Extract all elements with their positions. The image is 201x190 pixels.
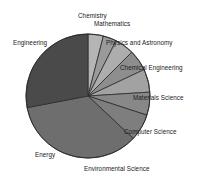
pie-chart: Chemistry Mathematics Physics and Astron…	[0, 0, 201, 190]
pie-label-mathematics: Mathematics	[94, 20, 130, 27]
pie-label-environmental-science: Environmental Science	[84, 165, 149, 172]
pie-label-energy: Energy	[35, 151, 55, 158]
pie-label-engineering: Engineering	[13, 39, 47, 46]
pie-label-materials-science: Materials Science	[133, 94, 184, 101]
pie-slice-group	[26, 34, 150, 158]
pie-label-chemistry: Chemistry	[78, 12, 107, 19]
pie-label-computer-science: Computer Science	[124, 128, 177, 135]
pie-label-chemical-engineering: Chemical Engineering	[120, 64, 183, 71]
pie-label-physics-and-astronomy: Physics and Astronomy	[106, 39, 173, 46]
